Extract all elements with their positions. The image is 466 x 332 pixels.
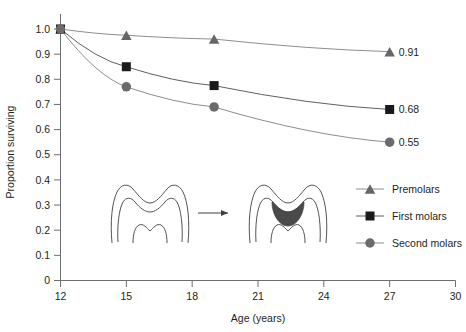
y-axis-tick-labels: 00.10.20.30.40.50.60.70.80.91.0 bbox=[35, 23, 50, 287]
series-line bbox=[61, 29, 390, 52]
legend-item-second-molars[interactable]: Second molars bbox=[356, 237, 462, 249]
data-point bbox=[209, 102, 219, 112]
y-tick-label: 1.0 bbox=[35, 23, 50, 35]
tooth-diagram-inset bbox=[111, 185, 327, 243]
end-value-label: 0.91 bbox=[399, 46, 420, 58]
x-tick-label: 18 bbox=[186, 290, 198, 302]
data-point bbox=[56, 24, 66, 34]
y-tick-label: 0.4 bbox=[35, 174, 50, 186]
series-line bbox=[61, 29, 390, 142]
data-point bbox=[385, 137, 395, 147]
series-second-molars bbox=[56, 24, 395, 147]
y-tick-label: 0 bbox=[44, 274, 50, 286]
x-tick-label: 15 bbox=[120, 290, 132, 302]
y-tick-label: 0.3 bbox=[35, 199, 50, 211]
y-axis-title: Proportion surviving bbox=[4, 105, 16, 198]
end-value-label: 0.55 bbox=[399, 136, 420, 148]
legend-label: Premolars bbox=[392, 183, 440, 195]
y-tick-label: 0.5 bbox=[35, 148, 50, 160]
x-tick-label: 24 bbox=[318, 290, 330, 302]
y-axis-ticks bbox=[54, 29, 61, 281]
y-tick-label: 0.9 bbox=[35, 48, 50, 60]
data-point bbox=[210, 81, 219, 90]
end-value-labels: 0.910.680.55 bbox=[399, 46, 420, 149]
tooth-outline-icon bbox=[111, 185, 189, 243]
data-point bbox=[122, 82, 132, 92]
chart-legend: PremolarsFirst molarsSecond molars bbox=[356, 183, 462, 249]
data-point bbox=[122, 62, 131, 71]
y-tick-label: 0.1 bbox=[35, 249, 50, 261]
x-axis-tick-labels: 12151821242730 bbox=[55, 290, 462, 302]
x-axis-title: Age (years) bbox=[231, 312, 285, 324]
legend-item-first-molars[interactable]: First molars bbox=[356, 210, 447, 222]
y-tick-label: 0.2 bbox=[35, 224, 50, 236]
x-axis: 12151821242730 Age (years) bbox=[55, 281, 462, 325]
x-axis-ticks bbox=[61, 281, 456, 288]
x-tick-label: 12 bbox=[55, 290, 67, 302]
y-tick-label: 0.6 bbox=[35, 123, 50, 135]
y-tick-label: 0.7 bbox=[35, 98, 50, 110]
series-premolars bbox=[55, 24, 395, 56]
legend-marker bbox=[366, 212, 375, 221]
data-series-layer bbox=[55, 24, 395, 147]
legend-label: Second molars bbox=[392, 237, 462, 249]
y-axis: 00.10.20.30.40.50.60.70.80.91.0 Proporti… bbox=[4, 14, 61, 286]
y-tick-label: 0.8 bbox=[35, 73, 50, 85]
series-line bbox=[61, 29, 390, 109]
x-tick-label: 21 bbox=[252, 290, 264, 302]
x-tick-label: 30 bbox=[450, 290, 462, 302]
x-tick-label: 27 bbox=[384, 290, 396, 302]
survival-chart: 00.10.20.30.40.50.60.70.80.91.0 Proporti… bbox=[0, 0, 466, 332]
series-first-molars bbox=[56, 25, 394, 114]
legend-label: First molars bbox=[392, 210, 447, 222]
end-value-label: 0.68 bbox=[399, 103, 420, 115]
legend-item-premolars[interactable]: Premolars bbox=[356, 183, 440, 195]
tooth-caries-icon bbox=[249, 185, 327, 243]
arrow-right-icon bbox=[198, 210, 228, 216]
chart-svg: 00.10.20.30.40.50.60.70.80.91.0 Proporti… bbox=[0, 0, 466, 332]
data-point bbox=[385, 105, 394, 114]
legend-marker bbox=[365, 238, 375, 248]
